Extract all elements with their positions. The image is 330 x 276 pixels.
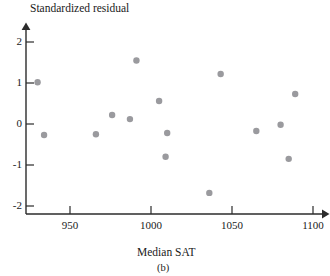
x-axis-title: Median SAT	[137, 247, 195, 259]
data-point	[292, 91, 298, 97]
x-tick-label: 950	[49, 220, 91, 231]
plot-canvas	[0, 0, 330, 276]
data-point	[93, 131, 99, 137]
axes-group	[22, 23, 330, 219]
y-axis-title: Standardized residual	[30, 3, 129, 15]
y-tick-label: 0	[0, 118, 22, 129]
tick-marks-group	[26, 42, 313, 214]
data-point	[156, 98, 162, 104]
data-point	[164, 130, 170, 136]
panel-caption: (b)	[157, 263, 169, 274]
data-point	[206, 190, 212, 196]
y-tick-label: -2	[0, 200, 22, 211]
x-tick-label: 1000	[130, 220, 172, 231]
data-point	[34, 79, 40, 85]
data-point	[162, 154, 168, 160]
data-point	[109, 112, 115, 118]
data-point	[286, 156, 292, 162]
x-axis-arrow-icon	[322, 210, 330, 219]
data-point	[217, 71, 223, 77]
data-point	[277, 122, 283, 128]
x-tick-label: 1100	[292, 220, 330, 231]
y-axis-arrow-icon	[22, 23, 31, 31]
scatter-plot-figure: Standardized residual Median SAT (b) 950…	[0, 0, 330, 276]
y-tick-label: 2	[0, 36, 22, 47]
data-points-group	[34, 57, 298, 196]
y-tick-label: -1	[0, 159, 22, 170]
data-point	[127, 116, 133, 122]
data-point	[41, 132, 47, 138]
data-point	[133, 57, 139, 63]
x-tick-label: 1050	[211, 220, 253, 231]
y-tick-label: 1	[0, 77, 22, 88]
data-point	[253, 128, 259, 134]
